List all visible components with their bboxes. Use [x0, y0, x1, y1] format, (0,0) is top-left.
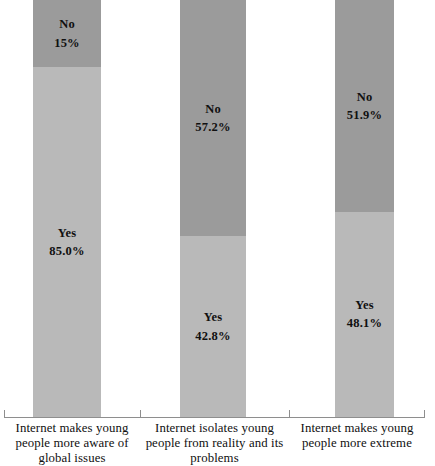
bar-segment-no-3: No 51.9% [335, 0, 394, 212]
segment-label: Yes [204, 308, 223, 326]
segment-value: 57.2% [195, 118, 230, 136]
category-label-1: Internet makes young people more aware o… [4, 421, 140, 466]
segment-label: Yes [58, 224, 77, 242]
bar-stack-1: No 15% Yes 85.0% [33, 0, 101, 417]
bar-segment-yes-3: Yes 48.1% [335, 212, 394, 417]
bar-column-2: No 57.2% Yes 42.8% [180, 0, 246, 417]
axis-tick-end [424, 410, 425, 417]
category-label-3: Internet makes young people more extreme [289, 421, 425, 451]
segment-value: 51.9% [347, 106, 382, 124]
plot-area: No 15% Yes 85.0% No 57.2% Yes 42.8% [0, 0, 435, 417]
axis-tick-start [4, 410, 5, 417]
category-labels: Internet makes young people more aware o… [0, 421, 435, 457]
category-label-2: Internet isolates young people from real… [140, 421, 289, 466]
bar-segment-no-1: No 15% [33, 0, 101, 67]
axis-tick-1 [140, 410, 141, 417]
bar-stack-2: No 57.2% Yes 42.8% [180, 0, 246, 417]
bar-segment-yes-1: Yes 85.0% [33, 67, 101, 417]
segment-label: No [357, 88, 373, 106]
segment-value: 48.1% [347, 314, 382, 332]
bar-segment-yes-2: Yes 42.8% [180, 236, 246, 417]
bar-column-1: No 15% Yes 85.0% [33, 0, 101, 417]
axis-tick-2 [289, 410, 290, 417]
segment-label: No [59, 15, 75, 33]
bar-stack-3: No 51.9% Yes 48.1% [335, 0, 394, 417]
segment-value: 85.0% [49, 242, 84, 260]
segment-label: Yes [355, 296, 374, 314]
category-axis-line [4, 417, 425, 418]
bar-segment-no-2: No 57.2% [180, 0, 246, 236]
segment-value: 15% [54, 34, 80, 52]
bar-column-3: No 51.9% Yes 48.1% [335, 0, 394, 417]
segment-label: No [205, 100, 221, 118]
segment-value: 42.8% [195, 327, 230, 345]
